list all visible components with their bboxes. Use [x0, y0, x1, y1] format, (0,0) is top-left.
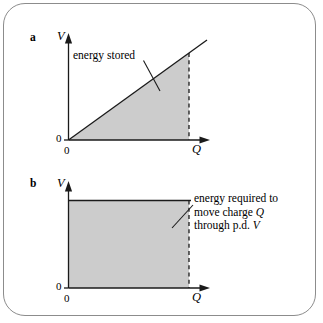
panel-b-x-axis-label: Q — [192, 291, 201, 304]
panel-b-annotation-line-1: energy required to — [194, 192, 278, 206]
panel-b-annotation-line-3: through p.d. V — [194, 219, 278, 233]
panel-b-annotation-line-2: move charge Q — [194, 206, 278, 220]
panel-b-annotation-line-3-text: through p.d. — [194, 219, 253, 231]
panel-b-annotation-symbol-v: V — [253, 219, 260, 231]
panel-b-letter: b — [30, 178, 36, 190]
panel-b-y-axis-label: V — [57, 177, 65, 190]
panel-b-y-axis-arrowhead — [65, 181, 72, 192]
panel-b: b V Q 0 0 energy required to move charge… — [0, 0, 323, 323]
panel-b-origin-label-x: 0 — [64, 293, 70, 304]
figure-container: a V Q 0 0 energy stored b V — [0, 0, 323, 323]
panel-b-annotation-energy-required: energy required to move charge Q through… — [194, 192, 278, 233]
shaded-rectangle-energy-required — [69, 201, 190, 289]
panel-b-origin-label-y: 0 — [56, 281, 62, 292]
panel-b-annotation-line-2-text: move charge — [194, 206, 256, 218]
panel-b-x-axis-arrowhead — [200, 284, 211, 291]
panel-b-annotation-symbol-q: Q — [256, 206, 264, 218]
